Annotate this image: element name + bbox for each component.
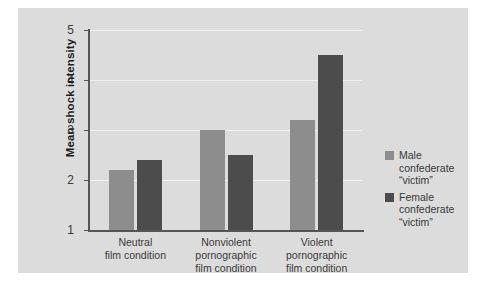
y-tick-label: 2	[44, 174, 74, 186]
legend-label: Maleconfederate“victim”	[399, 149, 480, 187]
x-axis-category-label-line: Violent	[262, 236, 372, 249]
legend-label-line: “victim”	[399, 216, 480, 229]
legend-entry: Maleconfederate“victim”	[385, 149, 480, 187]
bar	[200, 130, 225, 230]
bar	[109, 170, 134, 230]
legend-label-line: Female	[399, 191, 480, 204]
y-axis-title: Mean shock intensity	[64, 28, 76, 168]
plot-area	[90, 30, 362, 230]
legend-entry: Femaleconfederate“victim”	[385, 191, 480, 229]
x-axis-category-label-line: film condition	[262, 262, 372, 275]
bar	[137, 160, 162, 230]
bar	[290, 120, 315, 230]
legend: Maleconfederate“victim”Femaleconfederate…	[385, 149, 480, 232]
legend-label-line: “victim”	[399, 174, 480, 187]
legend-label: Femaleconfederate“victim”	[399, 191, 480, 229]
x-axis-category-label: Violentpornographicfilm condition	[262, 236, 372, 275]
y-tick-label: 1	[44, 224, 74, 236]
bar	[318, 55, 343, 230]
legend-label-line: confederate	[399, 203, 480, 216]
legend-swatch-icon	[385, 151, 394, 160]
figure: 12345 Mean shock intensity Neutralfilm c…	[0, 0, 486, 283]
chart-panel: 12345 Mean shock intensity Neutralfilm c…	[18, 8, 468, 273]
legend-label-line: confederate	[399, 162, 480, 175]
legend-swatch-icon	[385, 193, 394, 202]
x-axis-line	[88, 230, 364, 232]
x-axis-category-label-line: pornographic	[262, 249, 372, 262]
legend-label-line: Male	[399, 149, 480, 162]
bar	[228, 155, 253, 230]
